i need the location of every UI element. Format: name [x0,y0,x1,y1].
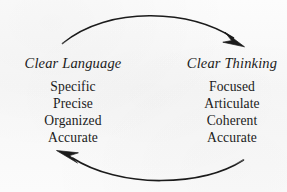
arrow-thinking-to-language [57,151,244,181]
arrow-top-head [223,32,245,47]
thinking-item-4: Accurate [178,131,286,145]
language-item-4: Accurate [2,131,144,145]
heading-clear-language: Clear Language [2,56,144,71]
language-item-3: Organized [2,114,144,128]
arrow-bottom-shaft [73,158,244,181]
column-clear-thinking: Clear Thinking Focused Articulate Cohere… [178,56,286,145]
heading-clear-thinking: Clear Thinking [178,56,286,71]
column-clear-language: Clear Language Specific Precise Organize… [2,56,144,145]
thinking-item-3: Coherent [178,114,286,128]
thinking-item-1: Focused [178,80,286,94]
thinking-item-2: Articulate [178,97,286,111]
cycle-diagram: Clear Language Specific Precise Organize… [0,0,287,192]
language-item-2: Precise [2,97,144,111]
arrow-bottom-head [57,151,79,164]
arrow-top-shaft [63,16,234,44]
arrow-bottom-shaft-taper [206,160,244,174]
arrow-language-to-thinking [63,16,245,47]
language-item-1: Specific [2,80,144,94]
arrow-top-shaft-taper [63,27,101,44]
